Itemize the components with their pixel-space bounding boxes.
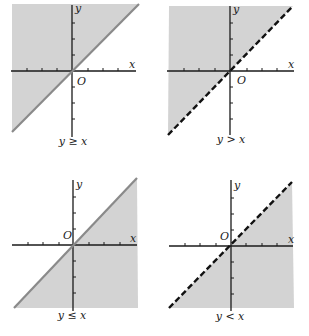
origin-label: O [77, 76, 86, 87]
panel-y-leq-x [12, 178, 138, 311]
x-axis-label: x [288, 234, 294, 245]
graphs-canvas [0, 0, 309, 336]
x-axis-label: x [130, 233, 136, 244]
inequality-graphs-figure: y x O y ≥ x y x O y > x y x O y ≤ x y x … [0, 0, 309, 336]
panel-y-lt-x [169, 180, 294, 311]
y-axis-label: y [234, 180, 240, 191]
x-axis-label: x [288, 59, 294, 70]
panel-caption: y ≤ x [58, 310, 87, 321]
y-axis-label: y [75, 3, 81, 14]
panel-y-geq-x [11, 4, 139, 137]
panel-caption: y ≥ x [59, 136, 88, 147]
panel-caption: y < x [216, 311, 245, 322]
y-axis-label: y [76, 179, 82, 190]
panel-caption: y > x [217, 134, 246, 145]
panel-y-gt-x [167, 6, 294, 135]
origin-label: O [63, 230, 72, 241]
origin-label: O [237, 75, 246, 86]
x-axis-label: x [129, 59, 135, 70]
y-axis-label: y [233, 4, 239, 15]
origin-label: O [220, 231, 229, 242]
